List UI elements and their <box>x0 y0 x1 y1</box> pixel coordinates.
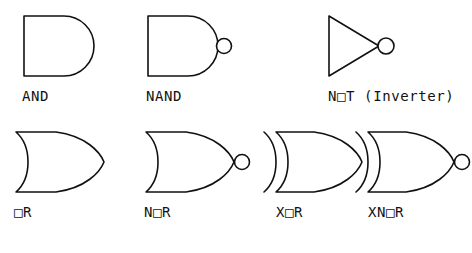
xnor-gate-symbol <box>350 124 472 204</box>
gate-cell-not: N□T (Inverter) <box>320 8 472 118</box>
output-bubble-icon <box>455 155 470 170</box>
gate-label-xor: X□R <box>276 204 303 220</box>
or-gate-symbol <box>8 124 128 204</box>
gate-cell-nor: N□R <box>138 124 258 236</box>
nand-gate-symbol <box>138 8 258 88</box>
and-gate-symbol <box>14 8 124 88</box>
gate-cell-and: AND <box>14 8 124 118</box>
gate-cell-xnor: XN□R <box>350 124 472 236</box>
gate-label-xnor: XN□R <box>368 204 404 220</box>
gate-label-and: AND <box>22 88 49 104</box>
gate-cell-or: □R <box>8 124 128 236</box>
nor-gate-symbol <box>138 124 258 204</box>
output-bubble-icon <box>378 38 394 54</box>
logic-gate-diagram: AND NAND N□T (Inverter) □R N□R <box>0 0 472 253</box>
gate-cell-nand: NAND <box>138 8 258 118</box>
output-bubble-icon <box>217 39 232 54</box>
xor-extra-arc-icon <box>264 132 276 192</box>
output-bubble-icon <box>235 155 250 170</box>
gate-label-nor: N□R <box>144 204 171 220</box>
gate-label-or: □R <box>14 204 32 220</box>
gate-label-not: N□T (Inverter) <box>328 88 454 104</box>
not-gate-symbol <box>320 8 472 88</box>
xor-extra-arc-icon <box>356 132 368 192</box>
gate-label-nand: NAND <box>146 88 182 104</box>
